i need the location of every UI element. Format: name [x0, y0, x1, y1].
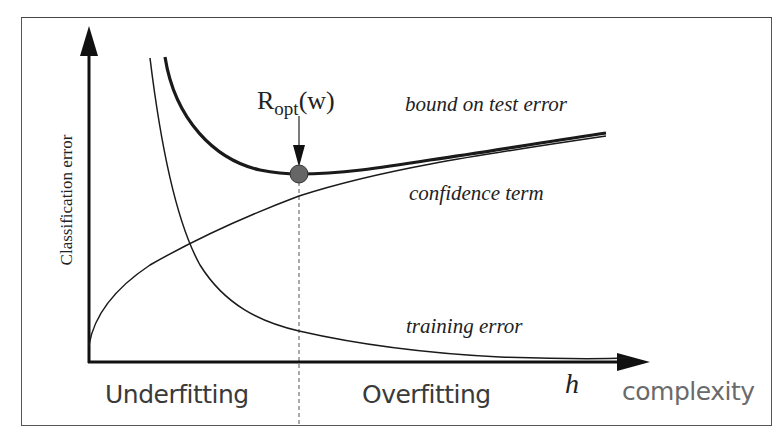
y-axis-label: Classification error [57, 100, 77, 300]
confidence-term-label: confidence term [409, 181, 544, 206]
confidence-term-curve [89, 136, 606, 345]
training-error-label: training error [406, 314, 522, 339]
x-axis-label: complexity [622, 377, 755, 406]
overfitting-label: Overfitting [362, 380, 491, 409]
bound-on-test-error-label: bound on test error [405, 92, 567, 117]
optimum-pointer-arrowhead-icon [293, 145, 305, 167]
underfitting-label: Underfitting [105, 380, 249, 409]
optimum-label-base: R [257, 86, 274, 115]
x-axis-variable-label: h [565, 368, 579, 400]
y-axis-arrowhead-icon [80, 26, 98, 56]
optimum-marker [290, 165, 308, 183]
optimum-label: Ropt(w) [257, 86, 335, 120]
plot-canvas [0, 0, 782, 437]
optimum-label-suffix: (w) [299, 86, 335, 115]
x-axis-arrowhead-icon [617, 353, 650, 371]
optimum-label-subscript: opt [274, 98, 298, 119]
